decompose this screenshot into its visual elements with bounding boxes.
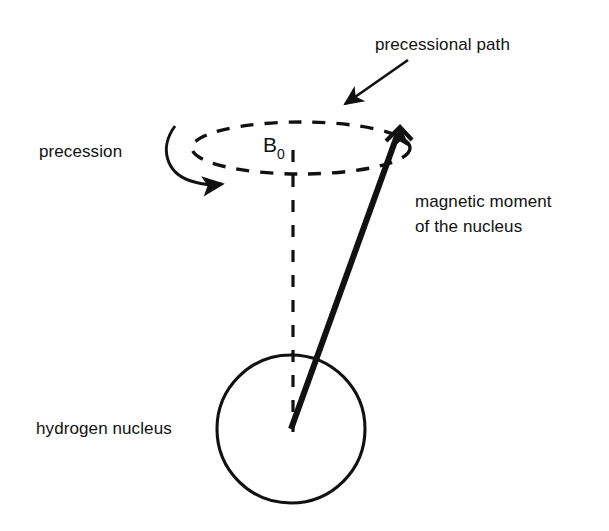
diagram-canvas: precessional path precession B 0 magneti…: [0, 0, 609, 531]
label-magnetic-moment-line1: magnetic moment: [415, 192, 552, 211]
precessional-path-pointer-arrow: [345, 60, 408, 104]
magnetic-moment-vector: [291, 133, 398, 429]
precessional-path-ellipse: [192, 122, 410, 174]
label-magnetic-field-subscript: 0: [277, 146, 285, 162]
label-magnetic-moment-line2: of the nucleus: [415, 217, 522, 236]
nmr-precession-diagram: precessional path precession B 0 magneti…: [0, 0, 609, 531]
label-hydrogen-nucleus: hydrogen nucleus: [36, 419, 172, 438]
label-precessional-path: precessional path: [375, 35, 510, 54]
label-magnetic-field-symbol: B: [263, 133, 277, 156]
label-precession: precession: [39, 142, 122, 161]
